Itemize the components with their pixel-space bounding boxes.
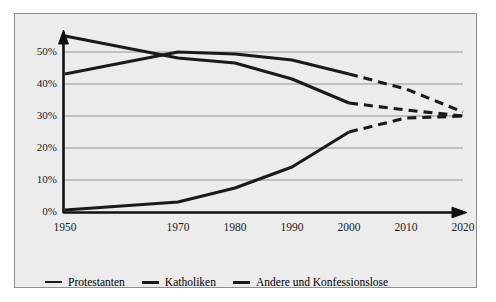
x-tick-label-2020: 2020 xyxy=(439,221,487,233)
series-line-andere-und-konfessionslose xyxy=(65,116,463,210)
legend-item-protestanten: Protestanten xyxy=(45,276,125,288)
y-tick-label-10: 10% xyxy=(17,173,57,185)
x-tick-label-1950: 1950 xyxy=(41,221,89,233)
series-andere-dashed xyxy=(349,116,463,132)
x-tick-label-2010: 2010 xyxy=(382,221,430,233)
series-protestanten-dashed xyxy=(349,103,463,116)
chart-frame: 50% 40% 30% 20% 10% 0% 1950 1970 1980 19… xyxy=(14,13,477,288)
x-tick-label-1980: 1980 xyxy=(211,221,259,233)
series-line-protestanten xyxy=(65,36,463,116)
x-tick-label-2000: 2000 xyxy=(325,221,373,233)
series-katholiken-solid xyxy=(65,52,349,74)
y-tick-label-0: 0% xyxy=(17,205,57,217)
legend-label-katholiken: Katholiken xyxy=(165,276,216,288)
y-tick-label-50: 50% xyxy=(17,45,57,57)
legend-line-icon-katholiken xyxy=(142,281,159,284)
line-chart-plot xyxy=(15,14,476,287)
legend-label-andere-und-konfessionslose: Andere und Konfessionslose xyxy=(256,276,388,288)
chart-figure: 50% 40% 30% 20% 10% 0% 1950 1970 1980 19… xyxy=(0,0,496,302)
legend-item-andere-und-konfessionslose: Andere und Konfessionslose xyxy=(233,276,388,288)
series-line-katholiken xyxy=(65,52,463,112)
y-tick-label-30: 30% xyxy=(17,109,57,121)
x-tick-label-1970: 1970 xyxy=(154,221,202,233)
series-protestanten-solid xyxy=(65,36,349,103)
legend-line-icon-andere xyxy=(233,281,250,284)
x-axis-arrowhead xyxy=(452,207,467,218)
legend-item-katholiken: Katholiken xyxy=(142,276,216,288)
legend-line-icon-protestanten xyxy=(45,281,62,283)
legend-label-protestanten: Protestanten xyxy=(68,276,125,288)
y-tick-label-40: 40% xyxy=(17,77,57,89)
chart-legend: Protestanten Katholiken Andere und Konfe… xyxy=(45,276,405,288)
x-tick-label-1990: 1990 xyxy=(268,221,316,233)
y-tick-label-20: 20% xyxy=(17,141,57,153)
series-andere-solid xyxy=(65,132,349,210)
